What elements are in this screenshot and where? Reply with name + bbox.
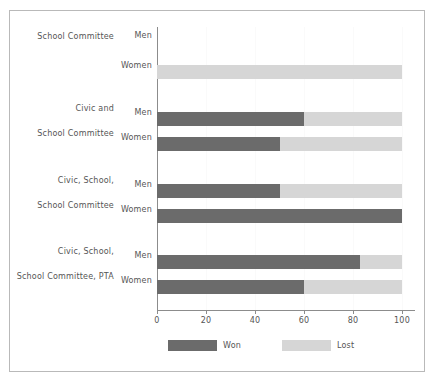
- ytick-label-civic-school-school-committee-men: Men: [116, 180, 152, 189]
- xtick-mark-80: [353, 310, 354, 314]
- ytick-label-civic-school-committee-women: Women: [116, 133, 152, 142]
- chart-legend: Won Lost: [0, 340, 436, 358]
- gridline-100: [402, 27, 403, 310]
- x-axis-line: [157, 310, 415, 311]
- group-label-line-2: School Committee, PTA: [0, 271, 114, 282]
- bar-segment-won[interactable]: [157, 255, 360, 269]
- plot-area: [157, 27, 402, 310]
- legend-label-lost: Lost: [337, 341, 354, 350]
- ytick-label-civic-school-committee-men: Men: [116, 108, 152, 117]
- xtick-label-80: 80: [333, 316, 373, 325]
- group-label-line-2: School Committee: [0, 200, 114, 211]
- ytick-label-civic-school-school-committee-women: Women: [116, 205, 152, 214]
- bar-segment-lost[interactable]: [157, 65, 402, 79]
- xtick-label-100: 100: [382, 316, 422, 325]
- bar-segment-lost[interactable]: [304, 112, 402, 126]
- group-label-school-committee: School Committee: [0, 31, 114, 42]
- group-label-civic-school-school-committee: Civic, School, School Committee: [0, 175, 114, 211]
- group-label-civic-school-committee: Civic and School Committee: [0, 103, 114, 139]
- bar-segment-won[interactable]: [157, 209, 402, 223]
- ytick-label-civic-school-school-committee-pta-men: Men: [116, 251, 152, 260]
- xtick-label-20: 20: [186, 316, 226, 325]
- xtick-mark-100: [402, 310, 403, 314]
- legend-label-won: Won: [223, 341, 241, 350]
- bar-segment-lost[interactable]: [304, 280, 402, 294]
- bar-segment-won[interactable]: [157, 112, 304, 126]
- xtick-mark-20: [206, 310, 207, 314]
- group-label-line-1: Civic and: [0, 103, 114, 114]
- bar-segment-won[interactable]: [157, 137, 280, 151]
- group-label-line-2: School Committee: [0, 128, 114, 139]
- legend-swatch-lost-icon: [282, 340, 331, 351]
- xtick-mark-40: [255, 310, 256, 314]
- ytick-label-civic-school-school-committee-pta-women: Women: [116, 276, 152, 285]
- xtick-mark-60: [304, 310, 305, 314]
- group-label-line-1: School Committee: [0, 31, 114, 42]
- xtick-label-0: 0: [137, 316, 177, 325]
- bar-segment-lost[interactable]: [360, 255, 402, 269]
- group-label-line-1: Civic, School,: [0, 246, 114, 257]
- bar-segment-lost[interactable]: [280, 184, 403, 198]
- legend-swatch-won-icon: [168, 340, 217, 351]
- bar-segment-won[interactable]: [157, 184, 280, 198]
- xtick-label-40: 40: [235, 316, 275, 325]
- xtick-label-60: 60: [284, 316, 324, 325]
- bar-segment-lost[interactable]: [280, 137, 403, 151]
- xtick-mark-0: [157, 310, 158, 314]
- group-label-civic-school-school-committee-pta: Civic, School, School Committee, PTA: [0, 246, 114, 282]
- ytick-label-school-committee-women: Women: [116, 61, 152, 70]
- bar-segment-won[interactable]: [157, 280, 304, 294]
- chart-figure: 0 20 40 60 80 100 Men Women Men Women Me…: [0, 0, 436, 382]
- ytick-label-school-committee-men: Men: [116, 31, 152, 40]
- group-label-line-1: Civic, School,: [0, 175, 114, 186]
